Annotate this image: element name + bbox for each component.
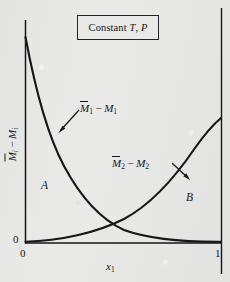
region-label-b: B	[186, 192, 193, 204]
annotation-arrow-m1	[59, 110, 80, 133]
curve-label-m1-plain-sub: 1	[113, 107, 117, 116]
curve-m1-minus-m1	[26, 37, 222, 242]
y-axis-label-plain-var: M	[6, 130, 18, 139]
y-axis-tick-zero: 0	[13, 234, 19, 245]
curve-label-m1-bar-sub: 1	[89, 107, 93, 116]
curve-label-m2-plain-sub: 2	[145, 162, 149, 171]
x-axis-label: x1	[106, 261, 115, 272]
curve-label-m2-minus: −	[125, 157, 136, 169]
curve-label-m1-minus: −	[93, 102, 104, 114]
title-prefix: Constant	[89, 22, 127, 33]
y-axis-label-minus: −	[6, 139, 18, 150]
title-var-pressure: P	[141, 22, 148, 33]
curve-label-m1-bar-var: M	[80, 101, 89, 114]
thermodynamics-partial-molar-figure: Constant T , P M1−M1 M2−M2 A B 0 0 1 x1 …	[0, 0, 230, 282]
title-box: Constant T , P	[77, 15, 159, 40]
y-axis-label-bar-sub: i	[11, 150, 20, 152]
curve-label-m1-plain-var: M	[104, 102, 113, 114]
plot-area	[0, 0, 230, 282]
curve-label-m1: M1−M1	[80, 103, 117, 114]
curve-label-m2-bar-var: M	[112, 156, 121, 169]
region-label-a: A	[41, 180, 48, 192]
curve-label-m2-plain-var: M	[136, 157, 145, 169]
curve-m2-minus-m2	[26, 118, 222, 242]
y-axis-label: Mi−Mi	[7, 117, 18, 173]
y-axis-label-bar-var: M	[5, 152, 18, 161]
x-axis-label-sub: 1	[111, 265, 115, 274]
x-axis-tick-1: 1	[215, 248, 221, 259]
y-axis-label-plain-sub: i	[11, 128, 20, 130]
x-axis-tick-0: 0	[20, 248, 26, 259]
curve-label-m2-bar-sub: 2	[121, 162, 125, 171]
curve-label-m2: M2−M2	[112, 158, 149, 169]
